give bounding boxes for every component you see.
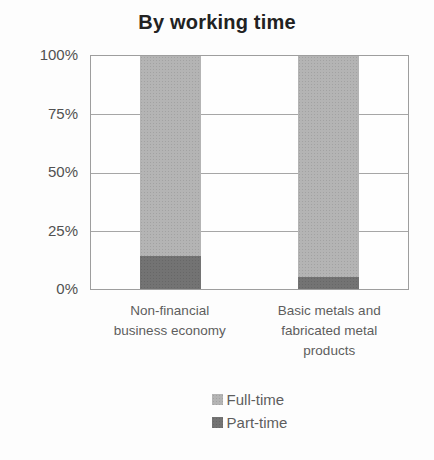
legend-item-part-time: Part-time — [212, 414, 288, 431]
bar-slot-basic-metals — [250, 56, 409, 289]
legend-label-full-time: Full-time — [227, 391, 285, 408]
bar-basic-metals-fabricated-products — [298, 56, 359, 289]
y-axis-tick-25: 25% — [0, 222, 78, 239]
segment-part-time — [140, 256, 201, 289]
legend: Full-time Part-time — [90, 388, 409, 434]
y-axis-tick-0: 0% — [0, 280, 78, 297]
plot-area — [90, 55, 409, 290]
bar-non-financial-business-economy — [140, 56, 201, 289]
segment-full-time — [298, 56, 359, 277]
y-axis-tick-75: 75% — [0, 105, 78, 122]
y-axis-tick-100: 100% — [0, 46, 78, 63]
full-time-swatch — [212, 394, 223, 405]
part-time-swatch — [212, 417, 223, 428]
category-label-non-financial: Non-financial business economy — [90, 301, 250, 361]
category-label-line: products — [250, 341, 410, 361]
chart-title: By working time — [0, 11, 434, 34]
category-label-line: business economy — [90, 321, 250, 341]
chart-figure: By working time 100% 75% 50% 25% 0% — [0, 0, 434, 460]
category-label-basic-metals: Basic metals and fabricated metal produc… — [250, 301, 410, 361]
bar-slots — [91, 56, 408, 289]
legend-label-part-time: Part-time — [227, 414, 288, 431]
legend-item-full-time: Full-time — [212, 391, 288, 408]
y-axis-tick-50: 50% — [0, 163, 78, 180]
category-label-line: fabricated metal — [250, 321, 410, 341]
bar-slot-non-financial — [91, 56, 250, 289]
category-label-line: Non-financial — [90, 301, 250, 321]
x-axis-labels: Non-financial business economy Basic met… — [90, 301, 409, 361]
legend-column: Full-time Part-time — [212, 388, 288, 434]
segment-part-time — [298, 277, 359, 289]
segment-full-time — [140, 56, 201, 256]
category-label-line: Basic metals and — [250, 301, 410, 321]
